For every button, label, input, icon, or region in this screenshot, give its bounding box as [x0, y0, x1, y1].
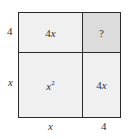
cell-bottom-right: 4x	[83, 53, 120, 117]
side-label-bottom-right: 4	[101, 120, 107, 132]
area-model-square: 4x ? x2 4x	[18, 12, 121, 118]
cell-unknown: ?	[83, 13, 120, 53]
cell-top-left: 4x	[19, 13, 83, 53]
side-label-left-bottom: x	[8, 76, 13, 88]
cell-bottom-left-label: x2	[46, 79, 54, 92]
question-mark-label: ?	[99, 27, 104, 39]
side-label-left-top: 4	[7, 25, 13, 37]
cell-bottom-right-label: 4x	[96, 79, 106, 91]
side-label-bottom-left: x	[48, 120, 53, 132]
cell-top-left-label: 4x	[45, 27, 55, 39]
cell-bottom-left: x2	[19, 53, 83, 117]
